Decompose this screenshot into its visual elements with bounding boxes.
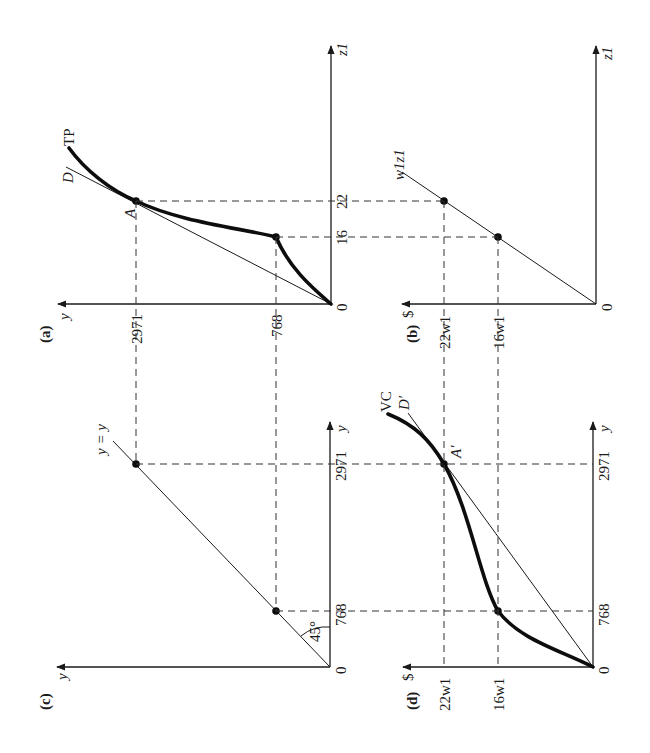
panel-c-angle-label: 45° xyxy=(307,621,323,642)
panel-b-tick-22w1: 22w1 xyxy=(437,316,453,349)
panel-d-tick-768: 768 xyxy=(596,604,612,627)
dashed-projection-lines xyxy=(136,201,593,667)
panel-a-y-axis-label: y xyxy=(56,313,72,322)
panel-d-vc-label: VC xyxy=(378,391,394,412)
panel-a-tp-curve xyxy=(69,148,331,304)
panel-d-tangent-label: D′ xyxy=(396,395,412,411)
panel-c-label: (c) xyxy=(37,693,54,710)
panel-d-vc-curve xyxy=(388,414,593,667)
panel-a-tangent-label-d: D xyxy=(60,172,76,184)
panel-b-w1z1-label: w1z1 xyxy=(391,149,407,180)
panel-b-input-cost: (b) $ z1 0 22w1 16w1 w1z1 xyxy=(391,46,615,349)
panel-c-line-label: y = y xyxy=(93,424,109,457)
panel-d-tick-2971: 2971 xyxy=(596,451,612,481)
panel-b-label: (b) xyxy=(404,325,421,343)
panel-a-z1-axis-label: z1 xyxy=(334,43,350,57)
panel-a-tangent-line-d xyxy=(66,167,331,304)
panel-a-label: (a) xyxy=(37,326,54,344)
panel-b-z1-axis-label: z1 xyxy=(599,47,615,61)
panel-a-tick-2971: 2971 xyxy=(129,314,145,344)
panel-d-variable-cost: (d) $ y 0 2971 768 22w1 16w1 D′ VC A′ xyxy=(378,391,612,711)
panel-d-tick-16w1: 16w1 xyxy=(491,678,507,711)
panel-a-total-product: (a) y z1 0 2971 768 22 16 D TP A xyxy=(37,43,350,344)
panel-b-dollar-axis-label: $ xyxy=(400,310,416,318)
panel-d-origin-label: 0 xyxy=(596,667,612,675)
panel-c-origin-label: 0 xyxy=(333,667,349,675)
panel-d-tick-22w1: 22w1 xyxy=(437,678,453,711)
panel-d-point-a-prime-label: A′ xyxy=(448,445,464,459)
panel-c-tick-768: 768 xyxy=(333,604,349,627)
four-panel-cost-derivation-diagram: (a) y z1 0 2971 768 22 16 D TP A (b) $ z… xyxy=(0,0,650,753)
panel-c-45-line xyxy=(113,441,330,667)
panel-a-tp-label: TP xyxy=(61,128,77,146)
panel-b-tick-16w1: 16w1 xyxy=(491,316,507,349)
panel-b-origin-label: 0 xyxy=(599,304,615,312)
panel-c-45-degree-line: (c) y y 0 2971 768 y = y 45° xyxy=(37,422,349,710)
panel-a-origin-label: 0 xyxy=(334,304,350,312)
panel-a-tick-768: 768 xyxy=(269,315,285,338)
panel-c-tick-2971: 2971 xyxy=(333,451,349,481)
panel-d-label: (d) xyxy=(404,692,421,710)
panel-c-y-axis-label: y xyxy=(54,673,70,682)
panel-d-y-axis-label: y xyxy=(596,425,612,434)
panel-c-x-axis-label: y xyxy=(333,425,349,434)
panel-d-dollar-axis-label: $ xyxy=(400,673,416,681)
